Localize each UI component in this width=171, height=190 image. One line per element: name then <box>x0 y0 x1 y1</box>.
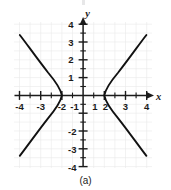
x-tick-label-2: 2 <box>103 101 108 112</box>
x-tick-label-neg4: -4 <box>15 101 24 112</box>
x-axis-label: x <box>155 91 161 102</box>
scan-artifact <box>82 0 85 5</box>
y-tick-label-3: 3 <box>68 37 73 48</box>
y-tick-label-neg2: -2 <box>68 126 76 137</box>
y-tick-label-neg4: -4 <box>68 162 77 173</box>
y-tick-label-2: 2 <box>68 54 73 65</box>
y-tick-label-4: 4 <box>68 19 74 30</box>
figure-caption: (a) <box>79 175 91 186</box>
hyperbola-plot: -4 -3 -2 -1 1 2 3 4 4 3 2 1 -2 -3 -4 x y… <box>0 0 171 190</box>
y-axis-label: y <box>83 8 90 19</box>
x-tick-label-3: 3 <box>123 101 128 112</box>
x-tick-label-neg2: -2 <box>58 101 66 112</box>
x-tick-label-neg3: -3 <box>36 101 44 112</box>
y-tick-label-neg3: -3 <box>68 144 76 155</box>
x-tick-label-1: 1 <box>92 101 98 112</box>
y-tick-label-1: 1 <box>68 72 74 83</box>
x-tick-label-4: 4 <box>144 101 150 112</box>
x-tick-label-neg1: -1 <box>70 101 79 112</box>
hyperbola-figure-panel: -4 -3 -2 -1 1 2 3 4 4 3 2 1 -2 -3 -4 x y… <box>0 0 171 190</box>
